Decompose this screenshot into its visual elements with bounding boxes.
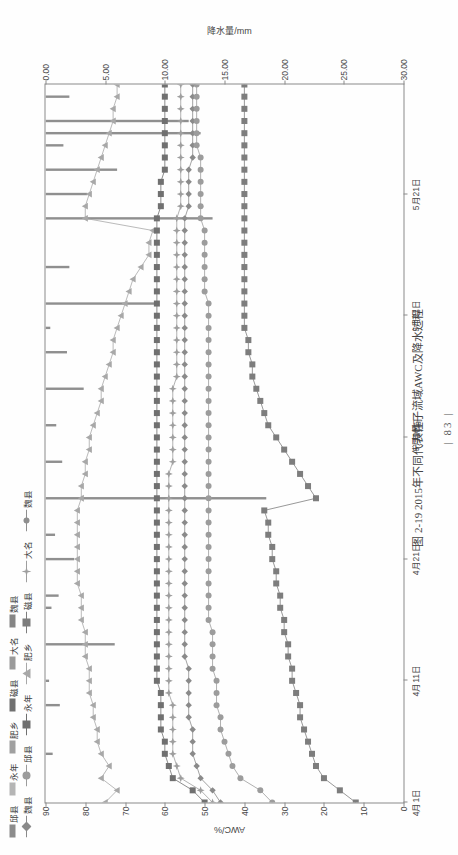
y-tick — [45, 802, 46, 806]
legend-label: 磁县 — [20, 591, 32, 609]
y-tick — [164, 802, 165, 806]
legend-label: 磁县 — [6, 678, 18, 696]
y-tick — [85, 802, 86, 806]
y2-tick-label: 10.00 — [159, 59, 169, 80]
legend-label: 魏县 — [6, 594, 18, 612]
legend-label: 邱县 — [20, 744, 32, 762]
y-tick-label: 20 — [318, 806, 328, 815]
y2-tick — [224, 80, 225, 84]
legend-line-item-肥乡: 肥乡 — [20, 642, 32, 684]
legend-marker-icon — [21, 713, 31, 735]
series-大名 — [193, 84, 275, 802]
legend-swatch — [9, 782, 15, 795]
legend-swatch — [9, 614, 15, 627]
chart-legend: 邱县永年肥乡磁县大名魏县 魏县邱县永年肥乡磁县大名魏县 — [6, 18, 40, 837]
legend-line-item-永年: 永年 — [20, 693, 32, 735]
y-tick — [125, 802, 126, 806]
y2-tick — [284, 80, 285, 84]
legend-swatch — [9, 824, 15, 837]
y2-tick — [403, 80, 404, 84]
legend-swatch — [9, 656, 15, 669]
legend-marker-icon — [21, 662, 31, 684]
legend-marker-icon — [21, 509, 31, 531]
legend-label: 永年 — [6, 762, 18, 780]
y-tick-label: 0 — [398, 806, 408, 811]
x-tick — [403, 801, 407, 802]
y2-tick-label: 15.00 — [219, 59, 229, 80]
y-tick-label: 10 — [358, 806, 368, 815]
legend-marker-icon — [21, 611, 31, 633]
y-tick-label: 70 — [120, 806, 130, 815]
legend-line-item-大名: 大名 — [20, 540, 32, 582]
legend-label: 魏县 — [20, 795, 32, 813]
y-tick-label: 60 — [159, 806, 169, 815]
figure-caption: 图 2-19 2015年不同代表性子流域AWC及降水过程 — [408, 0, 424, 855]
plot-frame: 010203040506070809030.0025.0020.0015.001… — [44, 83, 404, 803]
chart-canvas — [45, 84, 403, 802]
y-tick — [323, 802, 324, 806]
legend-line-item-邱县: 邱县 — [20, 744, 32, 786]
legend-marker-icon — [21, 815, 31, 837]
y2-tick-label: 0.00 — [40, 63, 50, 80]
legend-label: 魏县 — [20, 489, 32, 507]
legend-row-bars: 邱县永年肥乡磁县大名魏县 — [6, 594, 18, 837]
x-tick — [403, 679, 407, 680]
book-page: 邱县永年肥乡磁县大名魏县 魏县邱县永年肥乡磁县大名魏县 AWC/% 降水量/mm… — [0, 0, 458, 855]
x-tick — [403, 558, 407, 559]
y-tick — [204, 802, 205, 806]
y-tick-label: 80 — [80, 806, 90, 815]
legend-swatch — [9, 740, 15, 753]
y-tick-label: 50 — [199, 806, 209, 815]
legend-bar-item-永年: 永年 — [6, 762, 18, 795]
y-tick — [284, 802, 285, 806]
y-axis-title: AWC/% — [213, 824, 244, 834]
legend-marker-icon — [21, 560, 31, 582]
legend-label: 永年 — [20, 693, 32, 711]
x-tick — [403, 436, 407, 437]
scanned-page-frame: 邱县永年肥乡磁县大名魏县 魏县邱县永年肥乡磁县大名魏县 AWC/% 降水量/mm… — [0, 0, 458, 855]
y2-tick — [45, 80, 46, 84]
legend-label: 大名 — [6, 636, 18, 654]
y-tick — [244, 802, 245, 806]
plot-area: 010203040506070809030.0025.0020.0015.001… — [44, 85, 402, 803]
x-tick — [403, 193, 407, 194]
y2-tick-label: 5.00 — [100, 63, 110, 80]
x-tick — [403, 314, 407, 315]
legend-bar-item-磁县: 磁县 — [6, 678, 18, 711]
series-魏县 — [241, 84, 358, 802]
y-tick — [403, 802, 404, 806]
legend-line-item-魏县: 魏县 — [20, 489, 32, 531]
y-tick-label: 40 — [239, 806, 249, 815]
legend-bar-item-魏县: 魏县 — [6, 594, 18, 627]
legend-swatch — [9, 698, 15, 711]
y-tick-label: 30 — [279, 806, 289, 815]
legend-marker-icon — [21, 764, 31, 786]
legend-label: 大名 — [20, 540, 32, 558]
legend-label: 邱县 — [6, 804, 18, 822]
legend-label: 肥乡 — [20, 642, 32, 660]
legend-bar-item-邱县: 邱县 — [6, 804, 18, 837]
legend-line-item-磁县: 磁县 — [20, 591, 32, 633]
page-number: | 83 | — [440, 0, 452, 855]
y2-tick-label: 30.00 — [398, 59, 408, 80]
legend-bar-item-肥乡: 肥乡 — [6, 720, 18, 753]
y2-axis-title: 降水量/mm — [207, 24, 252, 37]
legend-row-lines: 魏县邱县永年肥乡磁县大名魏县 — [20, 489, 32, 837]
y-tick — [363, 802, 364, 806]
y2-tick — [343, 80, 344, 84]
legend-line-item-魏县: 魏县 — [20, 795, 32, 837]
y2-tick-label: 25.00 — [338, 59, 348, 80]
series-邱县 — [73, 84, 155, 802]
y2-tick-label: 20.00 — [279, 59, 289, 80]
legend-bar-item-大名: 大名 — [6, 636, 18, 669]
y2-tick — [164, 80, 165, 84]
y2-tick — [105, 80, 106, 84]
y-tick-label: 90 — [40, 806, 50, 815]
legend-label: 肥乡 — [6, 720, 18, 738]
